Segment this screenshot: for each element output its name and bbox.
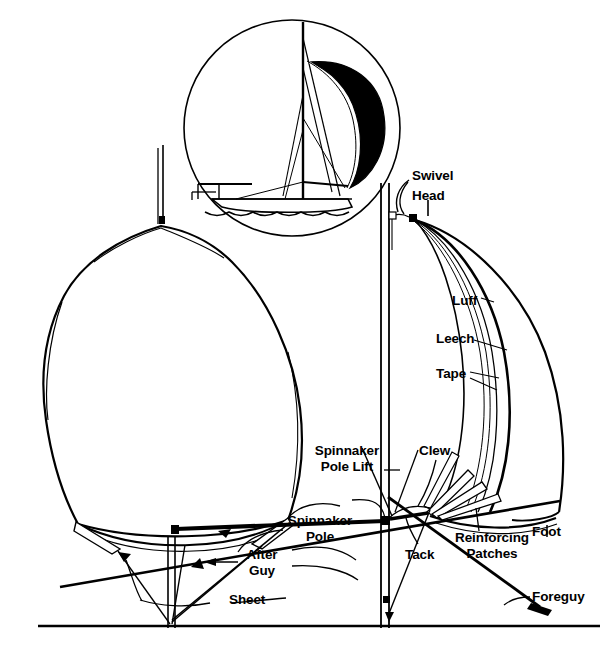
label-foreguy: Foreguy — [532, 589, 585, 604]
label-after-guy: After Guy — [239, 547, 285, 579]
flying-spinnaker-body — [43, 226, 301, 536]
spinnaker-diagram-figure: Swivel Head Luff Leech Tape Spinnaker Po… — [0, 0, 607, 645]
leader-after-guy-r2 — [292, 566, 358, 580]
sailboat-inset-group — [184, 20, 400, 236]
label-swivel: Swivel — [412, 168, 453, 183]
flat-sail-leech-line — [395, 450, 418, 512]
mast-base-block — [383, 596, 390, 603]
label-tack: Tack — [405, 547, 434, 562]
swivel-block — [389, 212, 396, 219]
guy-line-left — [118, 551, 170, 624]
label-foot: Foot — [532, 524, 561, 539]
label-head: Head — [412, 188, 445, 203]
flat-sail-inner-curve — [415, 220, 464, 508]
mast-base-fitting — [385, 612, 394, 622]
after-guy-arrowhead — [204, 558, 216, 566]
label-tape: Tape — [436, 366, 466, 381]
leader-swivel — [396, 180, 409, 212]
head-swivel-fitting — [409, 214, 417, 222]
leader-tack — [406, 518, 418, 544]
label-reinforcing-patches: Reinforcing Patches — [450, 530, 534, 562]
label-clew: Clew — [419, 443, 450, 458]
pole-outboard-end-fitting — [171, 525, 179, 534]
leader-after-guy-r1 — [292, 547, 356, 560]
label-leech: Leech — [436, 331, 475, 346]
sheet-arrowhead — [118, 552, 131, 562]
label-luff: Luff — [452, 293, 477, 308]
label-sheet: Sheet — [229, 592, 265, 607]
label-spinnaker-pole-lift: Spinnaker Pole Lift — [311, 443, 383, 475]
flat-sail-group — [389, 182, 563, 534]
flying-spinnaker-swivel — [159, 216, 165, 224]
label-spinnaker-pole: Spinnaker Pole — [281, 513, 359, 545]
